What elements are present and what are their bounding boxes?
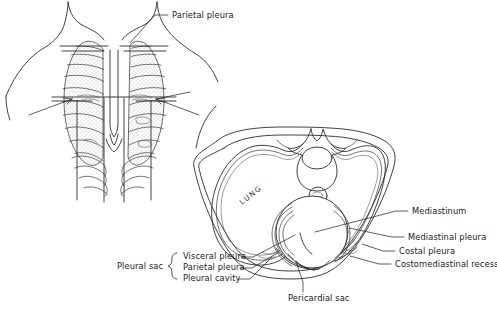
label-costal-pleura: Costal pleura — [399, 246, 455, 256]
label-pleural-cavity: Pleural cavity — [183, 273, 241, 283]
left-lung-shape — [64, 41, 103, 165]
costal-pleura-leader — [362, 244, 395, 251]
pleura-arrows — [29, 92, 199, 115]
sternum — [106, 50, 122, 152]
torso-outline — [6, 2, 218, 148]
costomediastinal-recess-leader — [350, 256, 391, 264]
label-costomediastinal-recess: Costomediastinal recess — [395, 259, 497, 269]
label-mediastinal-pleura: Mediastinal pleura — [408, 232, 486, 242]
label-parietal-pleura-top: Parietal pleura — [172, 10, 234, 20]
transverse-process-right — [346, 140, 357, 148]
label-visceral-pleura: Visceral pleura — [183, 251, 246, 261]
transverse-process-left — [277, 140, 288, 148]
vertebra-outline — [288, 129, 346, 191]
pleural-sac-brace — [168, 253, 177, 279]
lung-text-group: LUNG — [238, 183, 264, 206]
label-pleural-sac: Pleural sac — [117, 261, 164, 271]
label-lung: LUNG — [238, 183, 264, 206]
vertebral-body — [302, 147, 332, 169]
label-parietal-pleura: Parietal pleura — [183, 262, 245, 272]
anatomy-illustration: Parietal pleura — [0, 0, 497, 310]
vertebra — [277, 129, 357, 191]
label-mediastinum: Mediastinum — [412, 206, 467, 216]
anatomy-figure: Parietal pleura — [0, 0, 497, 310]
label-pericardial-sac: Pericardial sac — [288, 293, 350, 303]
